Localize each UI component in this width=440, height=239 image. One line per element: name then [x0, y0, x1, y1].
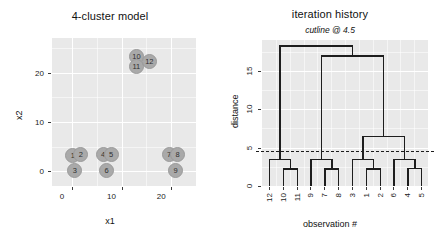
- dendrogram-subtitle: cutline @ 4.5: [220, 25, 440, 35]
- dendrogram-link-vertical: [310, 159, 311, 186]
- gridline-horizontal: [52, 73, 196, 74]
- x-tick-mark: [171, 187, 172, 190]
- y-tick-mark: [258, 186, 261, 187]
- leaf-label: 6: [389, 193, 398, 197]
- gridline-vertical-minor: [345, 40, 346, 186]
- x-tick-label: 0: [52, 192, 72, 201]
- x-tick-mark: [366, 187, 367, 190]
- y-tick-label: 15: [245, 66, 254, 75]
- scatter-y-axis-title: x2: [14, 110, 24, 120]
- dendrogram-y-axis-title: distance: [230, 94, 240, 128]
- dendrogram-link-horizontal: [393, 159, 414, 160]
- gridline-vertical-minor: [97, 38, 98, 186]
- y-tick-label: 10: [24, 117, 44, 126]
- dendrogram-link-vertical: [352, 45, 353, 55]
- dendrogram-link-vertical: [269, 159, 270, 186]
- dendrogram-link-vertical: [393, 159, 394, 186]
- leaf-label: 8: [334, 193, 343, 197]
- gridline-horizontal: [262, 71, 428, 72]
- leaf-label: 9: [306, 193, 315, 197]
- x-tick-mark: [310, 187, 311, 190]
- dendrogram-link-horizontal: [407, 168, 421, 169]
- x-tick-mark: [72, 187, 73, 190]
- y-tick-label: 5: [245, 145, 254, 149]
- y-tick-label: 20: [24, 68, 44, 77]
- dendrogram-link-vertical: [414, 159, 415, 167]
- leaf-label: 2: [375, 193, 384, 197]
- dendrogram-link-vertical: [321, 55, 322, 159]
- dendrogram-link-vertical: [373, 159, 374, 168]
- leaf-label: 4: [403, 193, 412, 197]
- leaf-label: 3: [347, 193, 356, 197]
- x-tick-mark: [324, 187, 325, 190]
- gridline-horizontal: [262, 109, 428, 110]
- dendrogram-panel: iteration history cutline @ 4.5 051015 1…: [220, 0, 440, 239]
- y-tick-mark: [258, 148, 261, 149]
- dendrogram-link-vertical: [331, 159, 332, 168]
- dendrogram-link-vertical: [404, 136, 405, 159]
- x-tick-mark: [338, 187, 339, 190]
- gridline-vertical-minor: [359, 40, 360, 186]
- cutline: [256, 151, 434, 152]
- x-tick-mark: [407, 187, 408, 190]
- x-tick-mark: [393, 187, 394, 190]
- leaf-label: 10: [278, 193, 287, 202]
- dendrogram-link-horizontal: [321, 55, 383, 56]
- y-tick-label: 0: [245, 184, 254, 188]
- dendrogram-link-horizontal: [310, 159, 331, 160]
- scatter-point: 9: [168, 163, 183, 178]
- dendrogram-link-vertical: [383, 55, 384, 136]
- x-tick-mark: [283, 187, 284, 190]
- x-tick-mark: [421, 187, 422, 190]
- dendrogram-link-vertical: [352, 159, 353, 186]
- dendrogram-link-vertical: [324, 168, 325, 186]
- leaf-label: 7: [320, 193, 329, 197]
- x-tick-mark: [122, 187, 123, 190]
- gridline-vertical-minor: [387, 40, 388, 186]
- x-tick-mark: [269, 187, 270, 190]
- gridline-horizontal-minor: [262, 90, 428, 91]
- y-tick-mark: [48, 73, 51, 74]
- gridline-vertical-minor: [317, 40, 318, 186]
- dendrogram-link-horizontal: [283, 168, 297, 169]
- x-tick-mark: [380, 187, 381, 190]
- dendrogram-title: iteration history: [220, 8, 440, 20]
- y-tick-mark: [48, 122, 51, 123]
- x-tick-mark: [352, 187, 353, 190]
- scatter-point: 12: [142, 54, 157, 69]
- scatter-point: 3: [67, 163, 82, 178]
- scatter-point: 8: [170, 147, 185, 162]
- x-tick-label: 20: [151, 192, 171, 201]
- dendrogram-link-vertical: [338, 168, 339, 186]
- dendrogram-link-horizontal: [366, 168, 380, 169]
- scatter-title: 4-cluster model: [0, 10, 220, 22]
- dendrogram-link-vertical: [407, 168, 408, 186]
- scatter-point: 5: [104, 147, 119, 162]
- scatter-point: 6: [99, 163, 114, 178]
- y-tick-mark: [258, 71, 261, 72]
- figure-canvas: 4-cluster model 0102001020 1234567891011…: [0, 0, 440, 239]
- dendrogram-link-vertical: [279, 45, 280, 159]
- scatter-panel: 4-cluster model 0102001020 1234567891011…: [0, 0, 220, 239]
- gridline-vertical-minor: [400, 40, 401, 186]
- gridline-horizontal-minor: [52, 48, 196, 49]
- leaf-label: 5: [417, 193, 426, 197]
- scatter-x-axis-title: x1: [0, 216, 220, 226]
- gridline-vertical: [122, 38, 123, 186]
- dendrogram-link-vertical: [421, 168, 422, 186]
- dendrogram-link-horizontal: [324, 168, 338, 169]
- gridline-vertical-minor: [304, 40, 305, 186]
- gridline-horizontal: [262, 186, 428, 187]
- gridline-horizontal-minor: [262, 52, 428, 53]
- y-tick-label: 10: [245, 105, 254, 114]
- dendrogram-link-horizontal: [269, 159, 290, 160]
- gridline-horizontal-minor: [262, 128, 428, 129]
- dendrogram-x-axis-title: observation #: [220, 219, 440, 229]
- x-tick-mark: [297, 187, 298, 190]
- dendrogram-link-horizontal: [279, 45, 352, 46]
- gridline-horizontal-minor: [52, 97, 196, 98]
- dendrogram-link-vertical: [366, 168, 367, 186]
- leaf-label: 12: [264, 193, 273, 202]
- dendrogram-link-vertical: [297, 168, 298, 186]
- dendrogram-link-horizontal: [352, 159, 373, 160]
